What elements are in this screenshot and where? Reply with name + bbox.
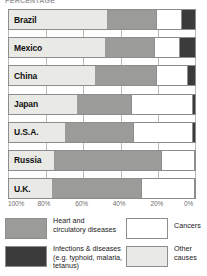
x-axis-tick: 80% bbox=[38, 200, 51, 207]
bar-segment-heart bbox=[77, 95, 132, 114]
bar-row-label-china: China bbox=[14, 71, 37, 81]
bar-row-label-brazil: Brazil bbox=[14, 15, 37, 25]
bar-row: U.K. bbox=[8, 178, 196, 199]
legend-swatch-other-icon bbox=[126, 246, 168, 267]
legend-label-other: Other causes bbox=[174, 245, 197, 262]
bar-row-label-russia: Russia bbox=[14, 155, 41, 165]
x-axis-tick: 60% bbox=[75, 200, 88, 207]
chart-title-fragment: PERCENTAGE bbox=[5, 0, 95, 5]
bar-segment-infections bbox=[180, 38, 196, 57]
bar-segment-heart bbox=[65, 123, 133, 142]
legend-label-heart: Heart and circulatory diseases bbox=[53, 217, 116, 234]
bar-segment-cancers bbox=[161, 151, 195, 170]
bar-segment-infections bbox=[182, 10, 196, 29]
bar-segment-cancers bbox=[156, 10, 182, 29]
bar-row: U.S.A. bbox=[8, 122, 196, 143]
bar-row-label-usa: U.S.A. bbox=[14, 127, 38, 137]
bar-segment-heart bbox=[95, 66, 155, 85]
legend-swatch-cancers-icon bbox=[126, 218, 168, 239]
bar-segment-heart bbox=[105, 38, 154, 57]
bar-row: Mexico bbox=[8, 37, 196, 58]
legend-label-cancers: Cancers bbox=[174, 222, 201, 231]
bar-segment-heart bbox=[107, 10, 156, 29]
legend-swatch-heart-icon bbox=[5, 218, 47, 239]
x-axis-tick: 100% bbox=[8, 200, 24, 207]
bar-row: Japan bbox=[8, 94, 196, 115]
bar-row-label-uk: U.K. bbox=[14, 184, 31, 194]
bar-segment-infections bbox=[193, 95, 196, 114]
bar-row: China bbox=[8, 65, 196, 86]
bar-segment-heart bbox=[52, 179, 140, 198]
bar-row-label-japan: Japan bbox=[14, 99, 38, 109]
x-axis-tick: 0% bbox=[184, 200, 193, 207]
bar-row-label-mexico: Mexico bbox=[14, 43, 42, 53]
bar-segment-heart bbox=[54, 151, 161, 170]
x-axis-tick: 20% bbox=[150, 200, 163, 207]
x-axis-tick: 40% bbox=[113, 200, 126, 207]
plot-area: BrazilMexicoChinaJapanU.S.A.RussiaU.K. bbox=[8, 9, 196, 199]
bar-row: Brazil bbox=[8, 9, 196, 30]
chart-legend: Heart and circulatory diseases Infection… bbox=[5, 216, 204, 274]
bar-segment-infections bbox=[195, 179, 196, 198]
bar-segment-cancers bbox=[141, 179, 196, 198]
legend-label-infections: Infections & diseases (e.g. typhoid, mal… bbox=[53, 245, 122, 271]
bar-rows: BrazilMexicoChinaJapanU.S.A.RussiaU.K. bbox=[8, 9, 196, 199]
stacked-bar-chart: PERCENTAGE BrazilMexicoChinaJapanU.S.A.R… bbox=[0, 0, 207, 276]
bar-segment-infections bbox=[195, 151, 196, 170]
bar-segment-cancers bbox=[154, 38, 180, 57]
bar-segment-infections bbox=[193, 123, 196, 142]
legend-swatch-infections-icon bbox=[5, 246, 47, 267]
bar-segment-cancers bbox=[156, 66, 188, 85]
bar-segment-infections bbox=[188, 66, 196, 85]
x-axis: 100%80%60%40%20%0% bbox=[8, 200, 196, 212]
bar-segment-cancers bbox=[133, 123, 193, 142]
bar-segment-cancers bbox=[131, 95, 193, 114]
bar-row: Russia bbox=[8, 150, 196, 171]
